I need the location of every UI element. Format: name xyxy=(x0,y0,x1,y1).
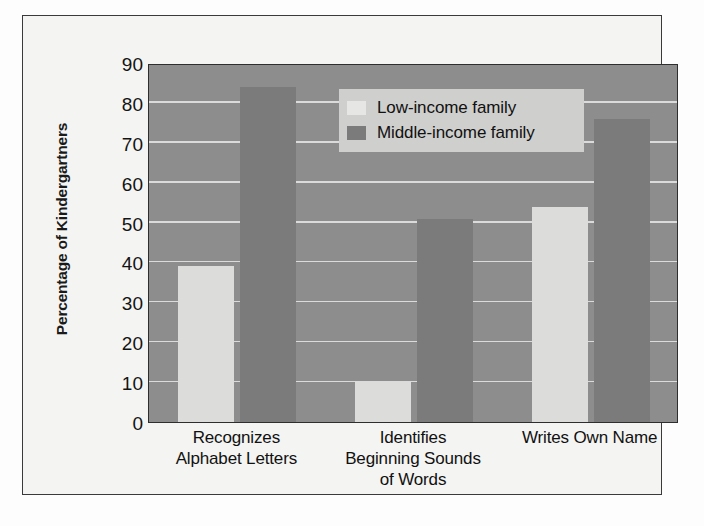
x-category-line: Alphabet Letters xyxy=(134,449,339,470)
y-tick-label: 60 xyxy=(99,174,143,193)
x-category-line: Recognizes xyxy=(134,428,339,449)
y-tick-label: 20 xyxy=(99,334,143,353)
plot-area: Low-income familyMiddle-income family xyxy=(148,64,678,423)
bar-middle-income xyxy=(417,219,473,422)
x-category-label: IdentifiesBeginning Soundsof Words xyxy=(311,428,516,491)
legend-row: Middle-income family xyxy=(347,120,574,145)
legend-swatch-icon xyxy=(347,101,366,115)
y-tick-label: 40 xyxy=(99,254,143,273)
y-axis-ticks: 9080706050403020100 xyxy=(93,64,143,423)
x-axis-category-labels: RecognizesAlphabet LettersIdentifiesBegi… xyxy=(148,428,678,500)
y-tick-label: 70 xyxy=(99,134,143,153)
figure-frame: Percentage of Kindergartners 90807060504… xyxy=(22,15,662,495)
y-tick-label: 80 xyxy=(99,94,143,113)
x-category-line: Beginning Sounds xyxy=(311,449,516,470)
y-tick-label: 10 xyxy=(99,374,143,393)
bar-low-income xyxy=(178,266,234,422)
x-category-line: Identifies xyxy=(311,428,516,449)
legend-row: Low-income family xyxy=(347,95,574,120)
bar-group xyxy=(149,65,326,422)
bar-middle-income xyxy=(594,119,650,422)
y-tick-label: 90 xyxy=(99,55,143,74)
legend-label: Middle-income family xyxy=(377,123,535,143)
chart-legend: Low-income familyMiddle-income family xyxy=(339,89,584,152)
bar-middle-income xyxy=(240,87,296,422)
x-category-line: of Words xyxy=(311,470,516,491)
x-category-label: Writes Own Name xyxy=(487,428,692,449)
bar-low-income xyxy=(532,207,588,422)
y-axis-title: Percentage of Kindergartners xyxy=(53,49,75,409)
bar-low-income xyxy=(355,382,411,422)
scanned-page: Percentage of Kindergartners 90807060504… xyxy=(0,0,704,526)
x-category-label: RecognizesAlphabet Letters xyxy=(134,428,339,470)
y-tick-label: 30 xyxy=(99,294,143,313)
x-category-line: Writes Own Name xyxy=(487,428,692,449)
y-axis-title-text: Percentage of Kindergartners xyxy=(53,49,71,409)
legend-swatch-icon xyxy=(347,126,366,140)
y-tick-label: 50 xyxy=(99,214,143,233)
legend-label: Low-income family xyxy=(377,98,516,118)
